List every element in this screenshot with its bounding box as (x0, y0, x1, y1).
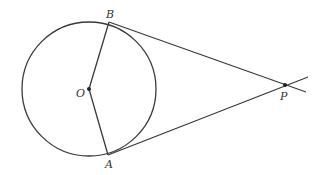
radius-OA (89, 89, 108, 155)
tangent-BP (109, 22, 306, 92)
point-P (283, 83, 287, 87)
radius-OB (89, 22, 109, 89)
tangent-AP (108, 77, 308, 155)
center-point-O (87, 87, 91, 91)
label-B: B (105, 8, 114, 21)
label-O: O (76, 87, 85, 100)
geometry-diagram: B O A P (0, 0, 326, 175)
label-A: A (104, 158, 113, 171)
label-P: P (279, 90, 288, 103)
